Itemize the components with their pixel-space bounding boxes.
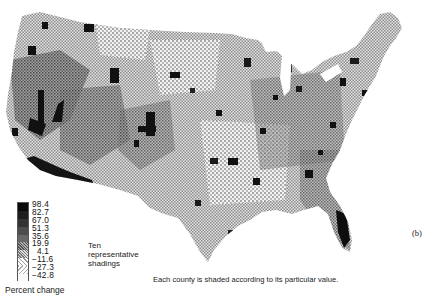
legend-swatch [18, 242, 28, 250]
legend-values: 98.4 82.7 67.0 51.3 35.6 19.9 4.1 −11.6 … [32, 201, 54, 280]
figure-caption: Each county is shaded according to its p… [153, 275, 338, 284]
legend-note-line: representative [88, 250, 139, 259]
legend-value: −42.8 [32, 272, 54, 280]
legend-swatch [18, 211, 28, 219]
legend-note: Ten representative shadings [88, 241, 139, 268]
legend-title: Percent change [5, 285, 65, 295]
legend-swatch [18, 227, 28, 235]
legend-swatch [18, 203, 28, 211]
legend-shade-bar [17, 202, 29, 281]
legend-swatch [18, 235, 28, 243]
map-land-area [0, 0, 433, 296]
legend-swatch [18, 266, 28, 274]
legend-swatch [18, 274, 28, 282]
legend-note-line: Ten [88, 241, 139, 250]
panel-label: (b) [412, 228, 422, 238]
legend-swatch [18, 219, 28, 227]
legend-swatch [18, 250, 28, 258]
lake-superior [262, 36, 310, 52]
legend-note-line: shadings [88, 259, 139, 268]
us-county-choropleth-map [0, 0, 433, 296]
legend-swatch [18, 258, 28, 266]
